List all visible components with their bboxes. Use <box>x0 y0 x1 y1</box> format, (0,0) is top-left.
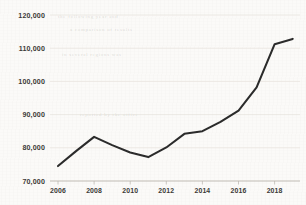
x-tick-label: 2016 <box>231 187 247 194</box>
x-tick-label: 2008 <box>86 187 102 194</box>
x-tick-label: 2006 <box>50 187 66 194</box>
y-tick-label: 110,000 <box>19 45 45 53</box>
y-tick-label: 80,000 <box>22 144 45 152</box>
x-tick-label: 2010 <box>122 187 138 194</box>
chart-canvas: 120,000 110,000 100,000 90,000 80,000 70… <box>0 0 306 205</box>
data-series-line <box>58 39 293 166</box>
x-tick-label: 2014 <box>194 187 210 194</box>
y-gridlines <box>50 15 300 148</box>
x-tick-label: 2012 <box>158 187 174 194</box>
y-tick-label: 70,000 <box>22 178 45 186</box>
x-tick-label: 2018 <box>267 187 283 194</box>
x-tick-marks <box>58 181 275 185</box>
line-chart: the following year and a comparison of r… <box>0 0 306 205</box>
y-axis-labels: 120,000 110,000 100,000 90,000 80,000 70… <box>18 12 45 186</box>
x-axis-labels: 2006 2008 2010 2012 2014 2016 2018 <box>50 187 283 194</box>
y-tick-label: 120,000 <box>18 12 45 20</box>
y-tick-label: 100,000 <box>18 78 45 86</box>
y-tick-label: 90,000 <box>22 111 45 119</box>
